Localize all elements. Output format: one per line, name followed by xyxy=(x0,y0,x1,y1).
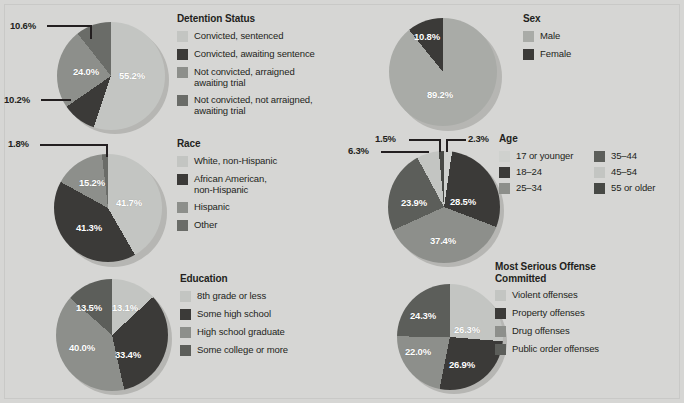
pie-education: 13.1% 33.4% 40.0% 13.5% xyxy=(56,279,168,391)
panel-race: 41.7% 41.3% 15.2% 1.8% Race White, non-H… xyxy=(0,135,342,265)
panel-most-serious-offense: 26.3% 26.9% 22.0% 24.3% Most Serious Off… xyxy=(342,258,684,403)
legend-swatch-icon xyxy=(180,291,191,302)
legend-item-label: 8th grade or less xyxy=(197,290,266,301)
legend-item-label: Drug offenses xyxy=(512,325,570,336)
slice-label-public-order-offenses: 24.3% xyxy=(410,310,436,321)
legend-title-race: Race xyxy=(177,138,337,150)
legend-item[interactable]: White, non-Hispanic xyxy=(177,155,337,167)
slice-label-age-18-24: 28.5% xyxy=(450,196,476,207)
legend-item-label: Property offenses xyxy=(512,307,585,318)
pie-disc xyxy=(389,18,497,126)
slice-label-violent-offenses: 26.3% xyxy=(454,324,480,335)
legend-item-label: Some college or more xyxy=(197,344,288,355)
slice-label-age-45-54: 6.3% xyxy=(348,145,369,156)
legend-swatch-icon xyxy=(177,67,188,78)
legend-swatch-icon xyxy=(499,183,510,194)
leader-line-other-horizontal xyxy=(40,144,107,146)
legend-item[interactable]: 25–34 xyxy=(499,182,594,194)
legend-item-label: Convicted, awaiting sentence xyxy=(194,48,315,59)
panel-education: 13.1% 33.4% 40.0% 13.5% Education 8th gr… xyxy=(0,265,342,403)
legend-swatch-icon xyxy=(499,167,510,178)
legend-age: Age 17 or younger 18–24 25–3 xyxy=(499,133,684,198)
legend-item-label: Convicted, sentenced xyxy=(194,30,283,41)
slice-label-other: 1.8% xyxy=(8,138,29,149)
legend-item[interactable]: Property offenses xyxy=(495,307,675,319)
legend-swatch-icon xyxy=(177,156,188,167)
legend-item[interactable]: Hispanic xyxy=(177,201,337,213)
legend-item[interactable]: Drug offenses xyxy=(495,325,675,337)
pie-detention-status: 55.2% 24.0% xyxy=(57,22,165,130)
pie-race: 41.7% 41.3% 15.2% xyxy=(54,154,162,262)
legend-item-label: Hispanic xyxy=(194,201,230,212)
slice-label-high-school-graduate: 40.0% xyxy=(69,342,95,353)
legend-item[interactable]: High school graduate xyxy=(180,326,340,338)
legend-item[interactable]: 55 or older xyxy=(594,182,684,194)
panel-detention-status: 55.2% 24.0% 10.6% 10.2% Detention Status… xyxy=(0,0,342,135)
slice-label-age-55-or-older: 1.5% xyxy=(375,133,396,144)
legend-item[interactable]: Convicted, awaiting sentence xyxy=(177,48,337,60)
slice-label-convicted-sentenced: 55.2% xyxy=(119,70,145,81)
legend-education: Education 8th grade or less Some high sc… xyxy=(180,273,340,362)
legend-item[interactable]: Not convicted, arraigned awaiting trial xyxy=(177,66,337,88)
legend-swatch-icon xyxy=(495,290,506,301)
legend-item-label: 18–24 xyxy=(516,166,542,177)
slice-label-not-arraigned: 10.6% xyxy=(10,20,36,31)
slice-label-property-offenses: 26.9% xyxy=(449,359,475,370)
legend-item[interactable]: Some college or more xyxy=(180,344,340,356)
legend-swatch-icon xyxy=(180,345,191,356)
legend-swatch-icon xyxy=(594,167,605,178)
leader-line-age-55-horizontal xyxy=(409,139,440,141)
legend-title-age: Age xyxy=(499,133,684,145)
pie-disc xyxy=(397,284,503,390)
legend-item[interactable]: 17 or younger xyxy=(499,150,594,162)
pie-most-serious-offense: 26.3% 26.9% 22.0% 24.3% xyxy=(397,284,503,390)
leader-line-not-arraigned-vertical xyxy=(90,25,92,39)
slice-label-some-college: 13.5% xyxy=(76,302,102,313)
legend-column-right: 35–44 45–54 55 or older xyxy=(594,150,684,198)
legend-item-label: 35–44 xyxy=(611,150,637,161)
panel-age: 28.5% 37.4% 23.9% 1.5% 2.3% 6.3% Age 17 … xyxy=(342,130,684,265)
legend-item[interactable]: Convicted, sentenced xyxy=(177,30,337,42)
legend-item[interactable]: Other xyxy=(177,219,337,231)
leader-line-age-17-vertical xyxy=(446,139,448,152)
legend-sex: Sex Male Female xyxy=(523,13,673,66)
legend-swatch-icon xyxy=(594,183,605,194)
legend-swatch-icon xyxy=(177,49,188,60)
leader-line-age-45-54 xyxy=(381,151,429,153)
legend-item[interactable]: 8th grade or less xyxy=(180,290,340,302)
slice-label-age-17-or-younger: 2.3% xyxy=(468,133,489,144)
legend-swatch-icon xyxy=(177,174,188,185)
pie-sex: 89.2% 10.8% xyxy=(389,18,497,126)
legend-detention-status: Detention Status Convicted, sentenced Co… xyxy=(177,13,337,122)
slice-label-age-25-34: 37.4% xyxy=(430,235,456,246)
pie-disc xyxy=(54,154,162,262)
slice-label-hispanic: 15.2% xyxy=(79,177,105,188)
legend-item[interactable]: 35–44 xyxy=(594,150,684,162)
legend-item-label: 25–34 xyxy=(516,182,542,193)
legend-item-label: African American, non-Hispanic xyxy=(194,173,267,195)
legend-item[interactable]: African American, non-Hispanic xyxy=(177,173,337,195)
legend-item[interactable]: Violent offenses xyxy=(495,289,675,301)
leader-line-other-vertical xyxy=(106,144,108,157)
legend-item-label: Violent offenses xyxy=(512,289,578,300)
slice-label-drug-offenses: 22.0% xyxy=(405,346,431,357)
legend-swatch-icon xyxy=(180,327,191,338)
legend-swatch-icon xyxy=(495,344,506,355)
legend-item[interactable]: 45–54 xyxy=(594,166,684,178)
leader-line-age-55-vertical xyxy=(439,139,441,152)
slice-label-male: 89.2% xyxy=(427,89,453,100)
legend-item-label: Other xyxy=(194,219,217,230)
legend-item[interactable]: Not convicted, not arraigned, awaiting t… xyxy=(177,94,337,116)
legend-item-label: 55 or older xyxy=(611,182,655,193)
legend-item[interactable]: Some high school xyxy=(180,308,340,320)
legend-column-left: 17 or younger 18–24 25–34 xyxy=(499,150,594,198)
pie-disc xyxy=(56,279,168,391)
legend-swatch-icon xyxy=(495,326,506,337)
legend-title-detention-status: Detention Status xyxy=(177,13,337,25)
legend-item[interactable]: 18–24 xyxy=(499,166,594,178)
legend-item[interactable]: Female xyxy=(523,48,673,60)
legend-item[interactable]: Male xyxy=(523,30,673,42)
legend-item[interactable]: Public order offenses xyxy=(495,343,675,355)
slice-label-some-high-school: 33.4% xyxy=(115,349,141,360)
legend-item-label: Not convicted, arraigned awaiting trial xyxy=(194,66,295,88)
